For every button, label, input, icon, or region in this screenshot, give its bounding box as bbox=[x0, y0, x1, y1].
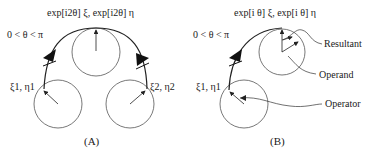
operand-leader bbox=[288, 56, 316, 74]
b-caption: (B) bbox=[270, 135, 285, 148]
a-top-label: exp[i2θ] ξ, exp[i2θ] η bbox=[47, 7, 134, 19]
b-top-label: exp[i θ] ξ, exp[i θ] η bbox=[234, 7, 316, 19]
b-arc-tick bbox=[229, 61, 242, 66]
panel-b: Resultant Operand Operator exp[i θ] ξ, e… bbox=[193, 7, 362, 148]
diagram-canvas: exp[i2θ] ξ, exp[i2θ] η 0 < θ < π ξ1, η1 … bbox=[0, 0, 370, 159]
operand-label: Operand bbox=[319, 69, 353, 80]
left-vector bbox=[44, 91, 58, 104]
a-range-label: 0 < θ < π bbox=[7, 29, 43, 40]
a-caption: (A) bbox=[84, 135, 100, 148]
b-left-label: ξ1, η1 bbox=[196, 81, 221, 93]
b-operand-vector bbox=[282, 42, 298, 52]
operator-label: Operator bbox=[325, 98, 361, 109]
left-arc-arrowhead-icon bbox=[43, 49, 56, 62]
b-arc-arrowhead-icon bbox=[229, 49, 242, 62]
panel-a: exp[i2θ] ξ, exp[i2θ] η 0 < θ < π ξ1, η1 … bbox=[7, 7, 175, 148]
operator-leader bbox=[240, 98, 322, 107]
b-range-label: 0 < θ < π bbox=[193, 29, 229, 40]
a-right-label: ξ2, η2 bbox=[150, 81, 175, 93]
resultant-label: Resultant bbox=[324, 38, 362, 49]
a-left-label: ξ1, η1 bbox=[10, 81, 35, 93]
right-vector bbox=[130, 91, 145, 104]
left-arc-tick bbox=[43, 61, 56, 66]
operator-arrowhead-icon bbox=[240, 95, 246, 101]
